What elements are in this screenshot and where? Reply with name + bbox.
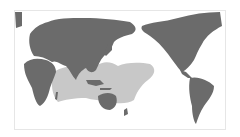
landmass-north-america xyxy=(141,12,222,72)
landmass-south-america xyxy=(189,77,214,124)
world-map xyxy=(0,0,240,137)
landmass-greenland-edge xyxy=(15,12,22,28)
landmass-africa xyxy=(24,59,56,106)
landmass-new-zealand xyxy=(124,108,128,116)
landmass-central-america xyxy=(180,70,192,78)
landmass-australia xyxy=(98,93,117,110)
